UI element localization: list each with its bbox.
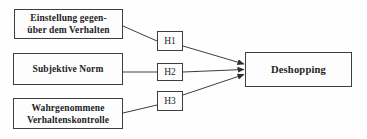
node-deshopping: Deshopping — [245, 52, 352, 87]
node-kontrolle-label-line1: Wahrgenommene — [31, 102, 104, 114]
connector-h2-deshopping-arrow — [183, 70, 244, 73]
node-subjektive-norm: Subjektive Norm — [13, 53, 123, 85]
connector-h1-deshopping-arrow — [183, 46, 244, 64]
connector-kontrolle-h3 — [123, 105, 157, 113]
node-hypothesis-h3: H3 — [157, 91, 183, 111]
node-h1-label: H1 — [164, 36, 176, 46]
node-einstellung-label-line1: Einstellung gegen- — [30, 12, 107, 24]
diagram-canvas: Einstellung gegen- über dem Verhalten Su… — [0, 0, 367, 139]
node-einstellung-gegenueber-dem-verhalten: Einstellung gegen- über dem Verhalten — [14, 9, 123, 39]
node-deshopping-label: Deshopping — [271, 64, 326, 75]
node-h2-label: H2 — [164, 67, 176, 77]
node-kontrolle-label-line2: Verhaltenskontrolle — [27, 114, 109, 126]
node-wahrgenommene-verhaltenskontrolle: Wahrgenommene Verhaltenskontrolle — [13, 98, 123, 129]
node-hypothesis-h1: H1 — [157, 31, 183, 51]
node-subjektive-norm-label: Subjektive Norm — [33, 63, 104, 75]
node-hypothesis-h2: H2 — [157, 63, 183, 81]
node-h3-label: H3 — [164, 96, 176, 106]
connector-einstellung-h1 — [123, 26, 157, 41]
connector-h3-deshopping-arrow — [183, 75, 244, 96]
node-einstellung-label-line2: über dem Verhalten — [27, 24, 109, 36]
